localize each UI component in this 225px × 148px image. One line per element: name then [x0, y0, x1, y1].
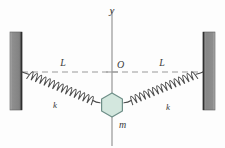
right-spring-coil-path [131, 72, 198, 105]
diagram-canvas: y O L L k k m [0, 0, 225, 148]
label-origin: O [117, 59, 124, 70]
label-y-axis: y [109, 4, 115, 16]
label-length-left: L [59, 57, 66, 68]
left-spring-tail-wire [93, 101, 100, 103]
left-spring [22, 72, 100, 105]
physics-figure: y O L L k k m [0, 0, 225, 148]
mass-hexagon [102, 93, 123, 117]
left-spring-coil-path [27, 72, 94, 105]
left-wall [10, 32, 22, 110]
right-wall-body [203, 32, 215, 110]
label-mass: m [119, 119, 126, 130]
label-length-right: L [158, 57, 165, 68]
right-spring-lead-wire [124, 101, 131, 103]
right-spring-coils [131, 72, 198, 105]
left-wall-body [10, 32, 22, 110]
right-wall [203, 32, 215, 110]
left-spring-coils [27, 72, 94, 105]
right-spring [124, 72, 203, 105]
label-spring-constant-right: k [166, 102, 171, 112]
label-spring-constant-left: k [53, 100, 58, 110]
